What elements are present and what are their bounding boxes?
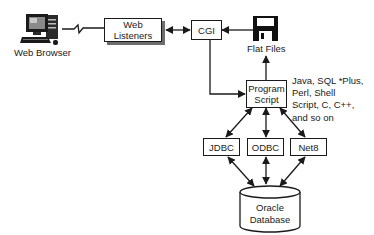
oracle-database-label-line2: Database	[239, 214, 301, 226]
oracle-database-label: Oracle Database	[239, 202, 301, 226]
script-languages-line: and so on	[292, 112, 363, 124]
web-listeners-node: Web Listeners	[104, 18, 162, 42]
jdbc-label: JDBC	[209, 142, 234, 153]
script-languages-note: Java, SQL *Plus, Perl, Shell Script, C, …	[292, 75, 363, 124]
cgi-node: CGI	[191, 20, 222, 40]
odbc-label: ODBC	[252, 142, 279, 153]
program-script-label-line1: Program	[248, 83, 284, 94]
program-script-label-line2: Script	[254, 94, 278, 105]
network-link-zigzag	[62, 25, 104, 33]
architecture-diagram: Web Browser Web Listeners CGI Flat Files…	[0, 0, 374, 235]
program-script-node: Program Script	[246, 80, 287, 108]
script-languages-line: Perl, Shell	[292, 87, 363, 99]
net8-node: Net8	[290, 138, 327, 156]
floppy-disk-icon	[253, 16, 278, 41]
flat-files-label: Flat Files	[247, 43, 286, 54]
cgi-label: CGI	[198, 25, 215, 36]
oracle-database-label-line1: Oracle	[239, 202, 301, 214]
web-listeners-label: Web Listeners	[105, 19, 161, 41]
odbc-node: ODBC	[247, 138, 284, 156]
desktop-computer-icon	[20, 13, 64, 47]
script-languages-line: Java, SQL *Plus,	[292, 75, 363, 87]
net8-label: Net8	[298, 142, 318, 153]
script-languages-line: Script, C, C++,	[292, 99, 363, 111]
jdbc-node: JDBC	[203, 138, 240, 156]
web-browser-label: Web Browser	[14, 47, 71, 58]
